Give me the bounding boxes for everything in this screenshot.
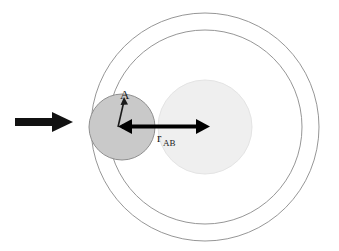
collision-cross-section-diagram: A r AB <box>0 0 339 251</box>
figure-canvas: A r AB <box>0 0 339 251</box>
rab-label-subscript: AB <box>163 138 176 148</box>
incoming-velocity-arrow <box>15 112 73 132</box>
rab-label-main: r <box>157 130 162 145</box>
particle-a-label: A <box>120 87 130 102</box>
